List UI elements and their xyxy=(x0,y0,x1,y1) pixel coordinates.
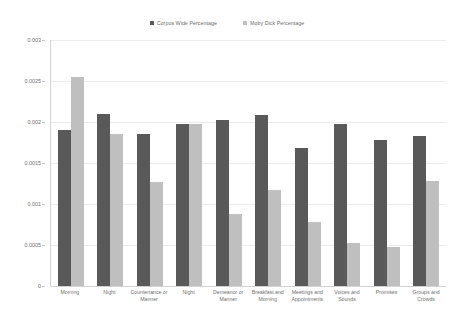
bar-corpus-wide[interactable] xyxy=(216,120,229,286)
legend-item-moby-dick-percentage: Moby Dick Percentage xyxy=(243,20,304,26)
gridline xyxy=(51,286,446,287)
bar-group xyxy=(130,40,170,286)
y-axis-tickmark xyxy=(42,245,45,246)
bar-corpus-wide[interactable] xyxy=(334,124,347,286)
bar-group xyxy=(209,40,249,286)
bar-moby-dick[interactable] xyxy=(71,77,84,286)
bar-moby-dick[interactable] xyxy=(110,134,123,286)
bar-moby-dick[interactable] xyxy=(150,182,163,286)
y-axis-tickmark xyxy=(42,40,45,41)
y-axis-tick: 0 xyxy=(38,283,41,289)
bar-corpus-wide[interactable] xyxy=(413,136,426,286)
x-axis-label: Meetings and Appointments xyxy=(288,289,328,304)
x-axis-label: Demeanor or Manner xyxy=(208,289,248,304)
x-axis-label: Countenance or Manner xyxy=(129,289,169,304)
y-axis-tick: 0.0015 xyxy=(25,160,42,166)
y-axis-tickmark xyxy=(42,122,45,123)
plot-wrapper: 00.00050.0010.00150.0020.00250.003 xyxy=(0,38,454,288)
y-axis-tickmark xyxy=(42,286,45,287)
bar-moby-dick[interactable] xyxy=(268,190,281,286)
bar-group xyxy=(170,40,210,286)
y-axis-tickmark xyxy=(42,81,45,82)
chart-legend: Corpus Wide Percentage Moby Dick Percent… xyxy=(0,20,454,26)
bar-group xyxy=(367,40,407,286)
x-axis-label: Night xyxy=(169,289,209,304)
y-axis-tick: 0.001 xyxy=(28,201,42,207)
x-axis-label: Voices and Sounds xyxy=(327,289,367,304)
x-axis-label: Morning xyxy=(50,289,90,304)
x-axis-label: Breakfast and Morning xyxy=(248,289,288,304)
bar-groups xyxy=(51,40,446,286)
bar-moby-dick[interactable] xyxy=(189,124,202,286)
bar-corpus-wide[interactable] xyxy=(58,130,71,286)
legend-label-corpus: Corpus Wide Percentage xyxy=(157,20,217,26)
legend-swatch-moby xyxy=(243,21,247,25)
y-axis-tickmark xyxy=(42,163,45,164)
bar-group xyxy=(91,40,131,286)
bar-moby-dick[interactable] xyxy=(387,247,400,286)
x-axis-label: Night xyxy=(90,289,130,304)
bar-group xyxy=(51,40,91,286)
bar-group xyxy=(328,40,368,286)
bar-group xyxy=(249,40,289,286)
y-axis-tick: 0.0005 xyxy=(25,242,42,248)
bar-moby-dick[interactable] xyxy=(347,243,360,286)
y-axis: 00.00050.0010.00150.0020.00250.003 xyxy=(0,38,46,286)
legend-item-corpus-wide-percentage: Corpus Wide Percentage xyxy=(150,20,217,26)
y-axis-tick: 0.0025 xyxy=(25,78,42,84)
bar-moby-dick[interactable] xyxy=(308,222,321,286)
bar-chart: Corpus Wide Percentage Moby Dick Percent… xyxy=(0,0,454,333)
y-axis-tick: 0.002 xyxy=(28,119,42,125)
bar-corpus-wide[interactable] xyxy=(137,134,150,286)
bar-corpus-wide[interactable] xyxy=(97,114,110,286)
bar-group xyxy=(288,40,328,286)
bar-corpus-wide[interactable] xyxy=(176,124,189,286)
bar-corpus-wide[interactable] xyxy=(255,115,268,286)
legend-label-moby: Moby Dick Percentage xyxy=(250,20,304,26)
y-axis-tickmark xyxy=(42,204,45,205)
bar-group xyxy=(407,40,447,286)
plot-area xyxy=(50,40,446,286)
x-axis-label: Groups and Crowds xyxy=(406,289,446,304)
legend-swatch-corpus xyxy=(150,21,154,25)
x-axis-label: Promises xyxy=(367,289,407,304)
y-axis-tick: 0.003 xyxy=(28,37,42,43)
bar-corpus-wide[interactable] xyxy=(295,148,308,286)
x-axis: MorningNightCountenance or MannerNightDe… xyxy=(50,289,446,304)
bar-moby-dick[interactable] xyxy=(229,214,242,286)
bar-moby-dick[interactable] xyxy=(426,181,439,286)
bar-corpus-wide[interactable] xyxy=(374,140,387,286)
